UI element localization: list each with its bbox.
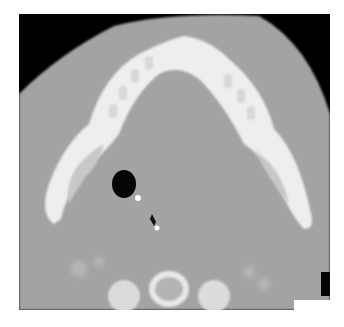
ct-scan-image [19,14,330,310]
